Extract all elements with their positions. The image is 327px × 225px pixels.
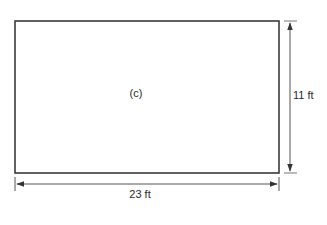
width-label: 23 ft: [129, 188, 150, 200]
shape-label: (c): [130, 87, 143, 99]
diagram-canvas: (c) 11 ft 23 ft: [0, 0, 327, 225]
height-label: 11 ft: [293, 89, 314, 101]
rectangle-diagram: (c) 11 ft 23 ft: [0, 0, 327, 225]
main-rectangle: [15, 21, 279, 173]
